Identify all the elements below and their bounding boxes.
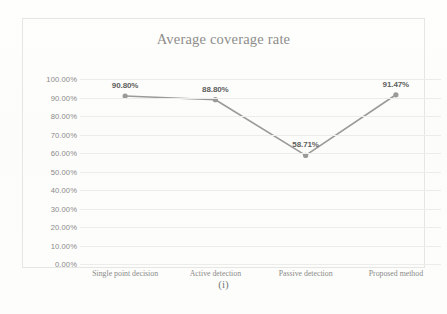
x-axis-tick-label: Active detection bbox=[190, 269, 241, 278]
y-axis-tick-label: 10.00% bbox=[51, 241, 77, 250]
y-axis-tick-label: 80.00% bbox=[51, 112, 77, 121]
y-axis-tick-label: 60.00% bbox=[51, 149, 77, 158]
data-point-label: 88.80% bbox=[202, 85, 229, 94]
figure-caption: (i) bbox=[0, 278, 447, 290]
y-axis-tick-label: 100.00% bbox=[46, 75, 77, 84]
y-axis-tick-label: 20.00% bbox=[51, 223, 77, 232]
y-axis-tick-label: 0.00% bbox=[55, 260, 77, 269]
x-axis-tick-label: Passive detection bbox=[279, 269, 333, 278]
x-axis-tick-label: Single point decision bbox=[92, 269, 158, 278]
y-axis-tick-label: 30.00% bbox=[51, 204, 77, 213]
y-axis-tick-labels: 100.00%90.00%80.00%70.00%60.00%50.00%40.… bbox=[37, 79, 77, 264]
data-point-label: 91.47% bbox=[383, 80, 410, 89]
y-axis-tick-label: 40.00% bbox=[51, 186, 77, 195]
y-axis-tick-label: 50.00% bbox=[51, 167, 77, 176]
y-axis-tick-label: 70.00% bbox=[51, 130, 77, 139]
chart-title: Average coverage rate bbox=[23, 31, 424, 48]
data-point-label: 90.80% bbox=[112, 81, 139, 90]
chart-frame: Average coverage rate 100.00%90.00%80.00… bbox=[22, 18, 425, 268]
data-point-label: 58.71% bbox=[292, 140, 319, 149]
x-axis-tick-label: Proposed method bbox=[369, 269, 423, 278]
y-axis-tick-label: 90.00% bbox=[51, 93, 77, 102]
gridline bbox=[80, 264, 441, 265]
data-point-labels: 90.80%88.80%58.71%91.47% bbox=[80, 79, 441, 264]
